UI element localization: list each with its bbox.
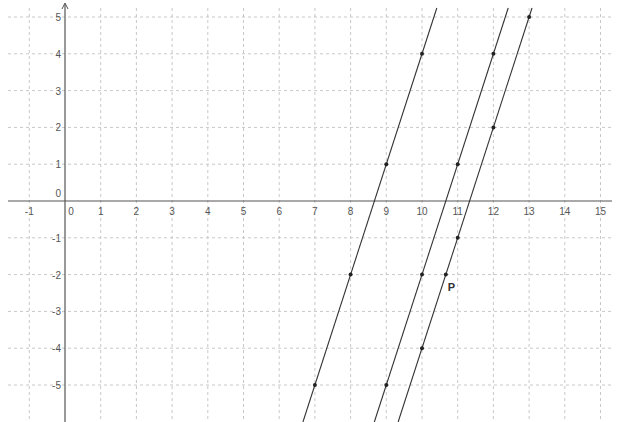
data-point <box>456 236 460 240</box>
x-tick-label: 0 <box>68 206 74 217</box>
y-tick-label: -5 <box>52 380 61 391</box>
data-point <box>349 273 353 277</box>
x-tick-label: 12 <box>488 206 500 217</box>
x-tick-label: 6 <box>276 206 282 217</box>
y-tick-label: 2 <box>55 122 61 133</box>
x-tick-label: 5 <box>241 206 247 217</box>
y-tick-label: 5 <box>55 12 61 23</box>
data-point <box>420 52 424 56</box>
x-tick-label: 7 <box>312 206 318 217</box>
data-point <box>420 273 424 277</box>
x-tick-label: 3 <box>169 206 175 217</box>
data-point <box>527 15 531 19</box>
x-tick-label: 4 <box>205 206 211 217</box>
data-point <box>420 346 424 350</box>
x-tick-label: 2 <box>134 206 140 217</box>
x-tick-label: 10 <box>416 206 428 217</box>
y-tick-label: -4 <box>52 343 61 354</box>
y-tick-label: -3 <box>52 306 61 317</box>
data-point <box>491 125 495 129</box>
y-tick-label: 1 <box>55 159 61 170</box>
y-tick-label: 0 <box>55 188 61 199</box>
data-point <box>313 383 317 387</box>
x-tick-label: 9 <box>384 206 390 217</box>
x-tick-label: 13 <box>524 206 536 217</box>
y-tick-label: -2 <box>52 270 61 281</box>
y-tick-label: 3 <box>55 86 61 97</box>
x-tick-label: 11 <box>453 206 464 217</box>
point-labels: P <box>444 273 455 293</box>
data-point <box>384 383 388 387</box>
y-tick-label: 4 <box>55 49 61 60</box>
data-point <box>384 162 388 166</box>
data-point <box>491 52 495 56</box>
point-p <box>444 273 448 277</box>
point-label-p: P <box>448 281 455 293</box>
x-tick-label: 15 <box>595 206 607 217</box>
y-tick-label: -1 <box>52 233 61 244</box>
x-tick-label: 8 <box>348 206 354 217</box>
x-tick-label: 1 <box>98 206 104 217</box>
data-point <box>456 162 460 166</box>
x-tick-label: -1 <box>25 206 34 217</box>
coordinate-plane: -10123456789101112131415-5-4-3-2-1012345… <box>0 0 617 422</box>
x-tick-label: 14 <box>559 206 571 217</box>
